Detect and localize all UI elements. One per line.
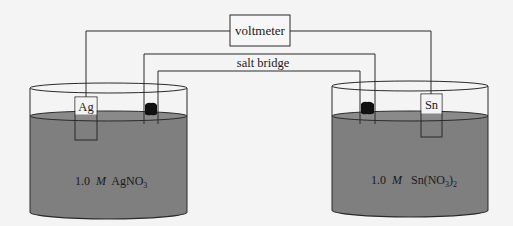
left-solution bbox=[30, 116, 187, 219]
left-solution-surface bbox=[30, 111, 187, 121]
left-beaker-rim bbox=[30, 83, 187, 93]
left-beaker bbox=[30, 83, 187, 219]
sn-electrode-label: Sn bbox=[425, 98, 439, 112]
voltmeter: voltmeter bbox=[230, 15, 290, 46]
left-solution-label: 1.0 M AgNO3 bbox=[75, 174, 147, 190]
salt-bridge-label: salt bridge bbox=[237, 56, 290, 70]
voltmeter-label: voltmeter bbox=[235, 23, 285, 38]
right-solution-label: 1.0 M Sn(NO3)2 bbox=[371, 173, 457, 189]
ag-electrode-label: Ag bbox=[78, 100, 94, 114]
left-salt-bridge-plug bbox=[145, 103, 157, 116]
right-solution-surface bbox=[332, 111, 488, 121]
right-beaker bbox=[332, 81, 488, 217]
right-solution bbox=[332, 116, 488, 217]
right-beaker-rim bbox=[332, 81, 488, 91]
galvanic-cell-diagram: voltmeter salt bridge Ag Sn 1.0 M AgNO3 … bbox=[0, 0, 513, 226]
right-salt-bridge-plug bbox=[361, 102, 374, 115]
